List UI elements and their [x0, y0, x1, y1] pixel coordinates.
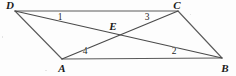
- vertex-label-D: D: [6, 0, 14, 11]
- vertex-label-A: A: [58, 63, 65, 74]
- geometry-figure: D C A B E 1 3 4 2: [0, 0, 236, 76]
- side-DA-line: [15, 11, 62, 59]
- angle-label-4: 4: [83, 47, 88, 57]
- scan-speck: [2, 36, 3, 38]
- diagonal-AC-line: [62, 11, 178, 59]
- diagonals: [15, 11, 222, 59]
- side-AB-line: [62, 58, 222, 59]
- angle-label-2: 2: [172, 47, 177, 57]
- side-CB-line: [178, 11, 222, 58]
- vertex-label-E: E: [109, 21, 116, 32]
- angle-label-3: 3: [145, 13, 150, 23]
- angle-label-1: 1: [58, 13, 63, 23]
- vertex-label-C: C: [173, 0, 180, 11]
- figure-canvas: [0, 0, 236, 76]
- scan-speck: [45, 70, 47, 71]
- diagonal-DB-line: [15, 11, 222, 58]
- vertex-label-B: B: [221, 63, 228, 74]
- scan-speck: [190, 14, 191, 15]
